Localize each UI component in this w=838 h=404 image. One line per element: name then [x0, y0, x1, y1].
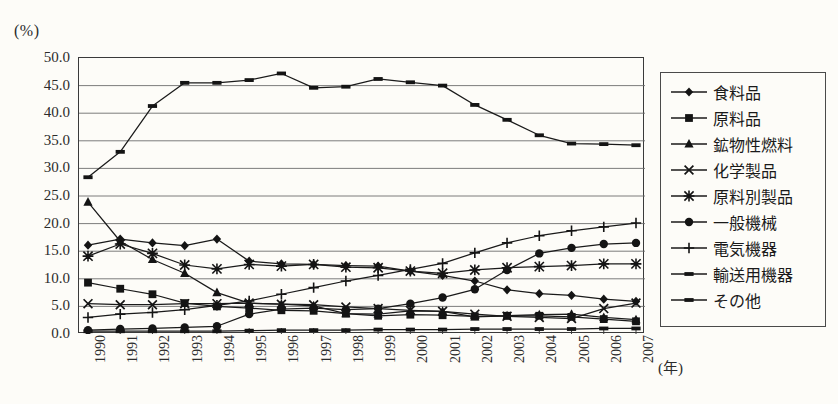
legend-item-4[interactable]: 原料別製品: [669, 183, 819, 209]
legend-label: 食料品: [713, 80, 761, 104]
data-point-asterisk: [534, 261, 545, 272]
x-tick-label: 2006: [609, 335, 625, 395]
x-tick-label: 2004: [544, 335, 560, 395]
data-point-circle: [535, 249, 543, 257]
legend-marker-circle-icon: [669, 213, 709, 231]
data-point-plus: [276, 289, 286, 299]
data-point-circle: [632, 239, 640, 247]
data-point-dash: [309, 86, 318, 90]
legend-label: 原料品: [713, 106, 761, 130]
series-5: [84, 239, 640, 334]
y-tick-label: 10.0: [14, 269, 70, 286]
data-point-diamond: [535, 289, 543, 298]
data-point-diamond: [685, 87, 693, 96]
x-tick-label: 1994: [222, 335, 238, 395]
data-point-plus: [405, 264, 415, 274]
data-point-dash: [374, 328, 383, 332]
data-point-plus: [684, 243, 694, 253]
legend-item-0[interactable]: 食料品: [669, 79, 819, 105]
legend-item-5[interactable]: 一般機械: [669, 209, 819, 235]
data-point-dash: [567, 142, 576, 146]
legend-item-7[interactable]: 輸送用機器: [669, 261, 819, 287]
data-point-dash: [374, 77, 383, 81]
data-point-dash: [406, 328, 415, 332]
data-point-dash: [438, 328, 447, 332]
y-tick-label: 20.0: [14, 214, 70, 231]
x-tick-label: 2000: [415, 335, 431, 395]
data-point-plus: [341, 276, 351, 286]
x-tick-label: 1995: [254, 335, 270, 395]
data-point-dash: [83, 175, 92, 179]
legend-item-2[interactable]: 鉱物性燃料: [669, 131, 819, 157]
data-point-diamond: [503, 285, 511, 294]
legend-item-8[interactable]: その他: [669, 287, 819, 313]
legend-marker-square-icon: [669, 109, 709, 127]
y-tick-label: 45.0: [14, 76, 70, 93]
y-tick-label: 5.0: [14, 297, 70, 314]
data-point-asterisk: [276, 261, 287, 272]
data-point-diamond: [213, 234, 221, 243]
data-point-diamond: [600, 295, 608, 304]
series-6: [83, 218, 641, 323]
plot-svg: [79, 58, 645, 334]
gridlines: [79, 86, 645, 307]
data-point-dash: [116, 150, 125, 154]
legend-marker-cross-x-icon: [669, 161, 709, 179]
data-point-circle: [685, 218, 693, 226]
legend-item-3[interactable]: 化学製品: [669, 157, 819, 183]
chart-legend: 食料品原料品鉱物性燃料化学製品原料別製品一般機械電気機器輸送用機器その他: [660, 72, 826, 327]
data-point-square: [685, 114, 693, 122]
data-point-asterisk: [244, 259, 255, 270]
data-point-dash: [684, 298, 693, 302]
x-tick-label: 2001: [448, 335, 464, 395]
data-point-triangle: [83, 197, 92, 206]
data-point-circle: [245, 310, 253, 318]
legend-item-1[interactable]: 原料品: [669, 105, 819, 131]
x-tick-label: 1999: [383, 335, 399, 395]
data-point-dash: [470, 327, 479, 331]
data-point-dash: [277, 72, 286, 76]
legend-label: 化学製品: [713, 158, 777, 182]
data-point-diamond: [148, 238, 156, 247]
series-0: [84, 234, 640, 306]
data-point-dash: [180, 81, 189, 85]
data-point-dash: [212, 81, 221, 85]
legend-marker-plus-icon: [669, 239, 709, 257]
data-point-dash: [684, 272, 693, 276]
legend-label: 一般機械: [713, 210, 777, 234]
data-point-dash: [277, 328, 286, 332]
data-point-plus: [631, 218, 641, 228]
data-point-plus: [115, 309, 125, 319]
data-point-circle: [342, 306, 350, 314]
data-point-asterisk: [684, 191, 695, 202]
data-point-plus: [534, 231, 544, 241]
legend-label: 輸送用機器: [713, 262, 793, 286]
legend-marker-dash-icon: [669, 265, 709, 283]
data-point-dash: [341, 328, 350, 332]
data-point-dash: [309, 328, 318, 332]
data-point-plus: [470, 248, 480, 258]
data-point-circle: [567, 244, 575, 252]
data-point-dash: [535, 133, 544, 137]
data-point-asterisk: [83, 251, 94, 262]
legend-label: 鉱物性燃料: [713, 132, 793, 156]
data-point-circle: [438, 293, 446, 301]
data-point-dash: [502, 327, 511, 331]
data-point-circle: [213, 322, 221, 330]
chart-page: (%) 0.05.010.015.020.025.030.035.040.045…: [0, 0, 838, 404]
legend-label: 電気機器: [713, 236, 777, 260]
data-point-circle: [374, 304, 382, 312]
x-tick-label: 1998: [351, 335, 367, 395]
x-tick-label: 1992: [157, 335, 173, 395]
data-point-dash: [148, 104, 157, 108]
x-tick-label: 2005: [577, 335, 593, 395]
data-point-asterisk: [566, 260, 577, 271]
y-tick-label: 25.0: [14, 187, 70, 204]
legend-item-6[interactable]: 電気機器: [669, 235, 819, 261]
y-tick-label: 30.0: [14, 159, 70, 176]
x-tick-label: 1996: [286, 335, 302, 395]
data-point-dash: [341, 85, 350, 89]
y-tick-label: 40.0: [14, 104, 70, 121]
data-point-circle: [309, 304, 317, 312]
data-point-plus: [83, 312, 93, 322]
